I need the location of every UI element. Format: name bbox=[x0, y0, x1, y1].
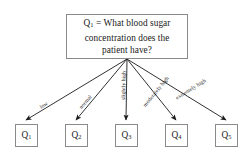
leaf-label-q1: Q1 bbox=[22, 131, 32, 141]
edge-line-moderately-high bbox=[127, 59, 176, 120]
leaf-label-q4: Q4 bbox=[172, 131, 182, 141]
leaf-node-q3: Q3 bbox=[115, 124, 138, 147]
root-question-node: Q1 = What blood sugar concentration does… bbox=[66, 14, 188, 59]
edge-line-extremely-high bbox=[127, 59, 226, 120]
root-question-line3: patient have? bbox=[102, 45, 152, 55]
leaf-node-q5: Q5 bbox=[215, 124, 238, 147]
leaf-label-q3: Q3 bbox=[122, 131, 132, 141]
edge-line-low bbox=[26, 59, 127, 120]
leaf-label-q2: Q2 bbox=[72, 131, 82, 141]
root-question-line1: = What blood sugar bbox=[96, 18, 170, 28]
edge-label-slightly-high: slightly high bbox=[120, 71, 127, 100]
leaf-node-q4: Q4 bbox=[165, 124, 188, 147]
leaf-node-q1: Q1 bbox=[15, 124, 38, 147]
decision-tree-diagram: Q1 = What blood sugar concentration does… bbox=[0, 0, 250, 152]
root-label-subscript: 1 bbox=[90, 21, 93, 28]
root-question-line2: concentration does the bbox=[85, 33, 170, 43]
leaf-label-q5: Q5 bbox=[222, 131, 232, 141]
leaf-node-q2: Q2 bbox=[65, 124, 88, 147]
root-question-text: Q1 = What blood sugar concentration does… bbox=[72, 17, 182, 56]
